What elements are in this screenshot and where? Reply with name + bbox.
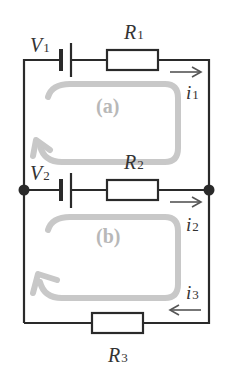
node-left [19, 185, 30, 196]
battery-v1 [61, 43, 71, 77]
label-r3: R3 [107, 344, 128, 366]
label-r1: R1 [123, 21, 144, 43]
current-arrow-i2 [170, 197, 201, 207]
label-r2: R2 [123, 151, 144, 173]
current-arrow-i1 [170, 67, 201, 77]
label-i1: i1 [186, 82, 199, 103]
label-i2: i2 [186, 214, 199, 235]
resistor-r3 [92, 313, 143, 333]
battery-v2 [61, 173, 71, 208]
resistor-r1 [107, 50, 158, 70]
label-v1: V1 [30, 34, 50, 56]
node-right [204, 185, 215, 196]
current-arrow-i3 [170, 305, 201, 315]
loop-label-b: (b) [96, 225, 120, 248]
resistor-r2 [107, 180, 158, 200]
label-v2: V2 [30, 162, 50, 184]
label-i3: i3 [186, 282, 199, 303]
loop-label-a: (a) [96, 95, 119, 118]
circuit-diagram: V1 R1 i1 (a) V2 R2 i2 (b) i3 R3 [0, 0, 235, 383]
